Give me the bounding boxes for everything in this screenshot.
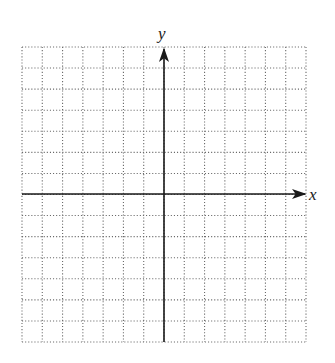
- coordinate-plane: x y: [0, 0, 335, 363]
- y-axis-label: y: [156, 24, 166, 43]
- x-axis-label: x: [308, 185, 317, 204]
